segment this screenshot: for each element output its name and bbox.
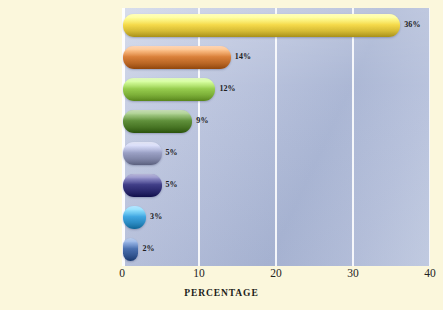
tick-label-10: 10 — [193, 267, 205, 279]
tick-label-40: 40 — [424, 267, 436, 279]
x-axis-title: PERCENTAGE — [0, 288, 443, 298]
tick-label-30: 30 — [347, 267, 359, 279]
tick-label-20: 20 — [270, 267, 282, 279]
tick-label-0: 0 — [119, 267, 125, 279]
category-labels-group: LoveCompanionshipDesire for childrenHapp… — [0, 8, 443, 266]
x-axis-ticks: 010203040 — [122, 267, 430, 285]
bar-chart: 36%14%12%9%5%5%3%2% LoveCompanionshipDes… — [0, 0, 443, 310]
